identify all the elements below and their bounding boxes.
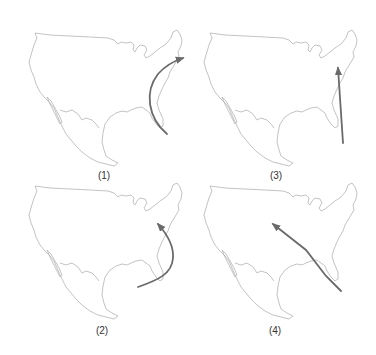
- panel-1: [29, 30, 183, 166]
- panel-4: [204, 183, 357, 319]
- figure-canvas: [0, 0, 376, 355]
- north-america-map: [29, 183, 182, 319]
- panel-2: [29, 183, 182, 319]
- panel-label-1: (1): [84, 170, 124, 181]
- panel-label-2: (2): [82, 325, 122, 336]
- panel-3: [204, 30, 357, 166]
- panel-label-3: (3): [256, 170, 296, 181]
- straight-arrow: [273, 224, 341, 291]
- curved-arrow: [138, 224, 173, 287]
- north-america-map: [204, 30, 357, 166]
- panel-label-4: (4): [255, 325, 295, 336]
- north-america-map: [204, 183, 357, 319]
- north-america-map: [29, 30, 182, 166]
